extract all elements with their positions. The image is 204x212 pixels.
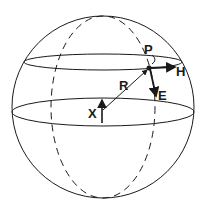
label-r: R [119, 78, 129, 93]
label-p: P [144, 42, 153, 57]
label-x: X [88, 106, 97, 121]
sphere-outline [12, 16, 194, 198]
sphere-diagram: P H E R X [0, 0, 204, 212]
label-e: E [158, 88, 167, 103]
meridian-dashed [51, 16, 155, 198]
h-arrow [149, 67, 175, 68]
e-arrow [150, 69, 156, 96]
equator [12, 98, 194, 126]
label-h: H [176, 64, 185, 79]
